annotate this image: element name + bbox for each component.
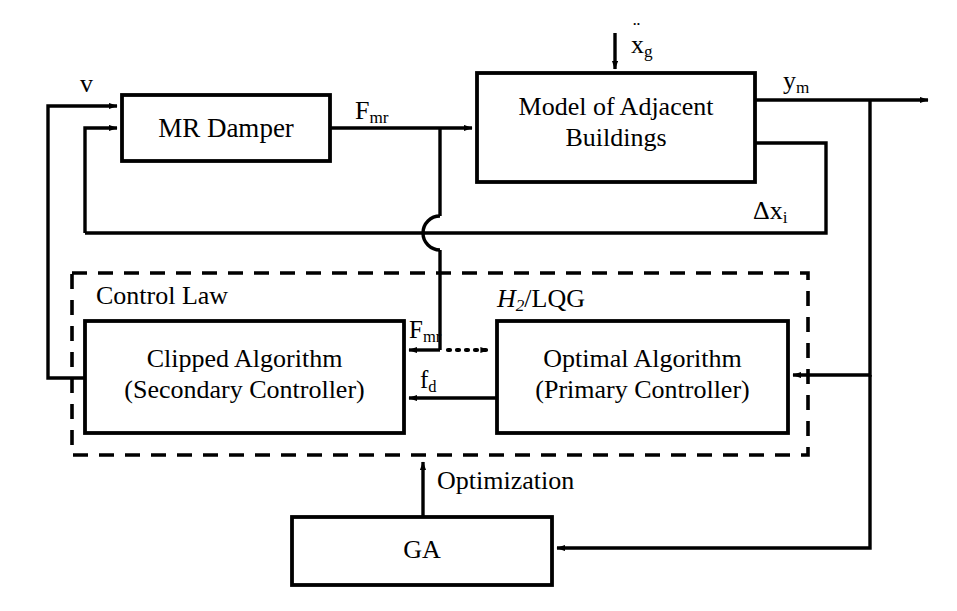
line-ym-to-ga — [557, 375, 870, 548]
line-v-feedback — [48, 106, 117, 378]
group-label-control-law: Control Law — [96, 281, 228, 311]
block-ga — [292, 517, 552, 585]
line-ym-to-optimal — [793, 100, 870, 375]
line-dx-to-damper — [85, 128, 117, 233]
block-optimal — [497, 321, 788, 433]
line-dx-feedback — [85, 143, 826, 233]
block-buildings — [477, 73, 755, 182]
block-clipped — [85, 321, 404, 433]
block-mr-damper — [122, 95, 330, 161]
diagram-canvas: MR Damper Model of Adjacent Buildings Cl… — [0, 0, 957, 611]
